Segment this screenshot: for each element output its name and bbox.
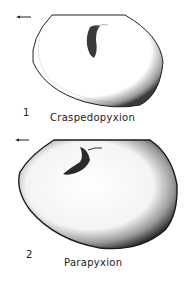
figure-caption: Craspedopyxion [50, 112, 135, 123]
figure-caption: Parapyxion [64, 257, 122, 268]
figure-2: 2 Parapyxion [0, 130, 188, 284]
figure-1: 1 Craspedopyxion [0, 0, 188, 130]
arrow-left-icon [15, 139, 29, 142]
figure-number: 2 [26, 249, 32, 260]
figure-number: 1 [23, 107, 29, 118]
shell-outline [19, 140, 177, 249]
arrow-left-icon [16, 16, 31, 19]
